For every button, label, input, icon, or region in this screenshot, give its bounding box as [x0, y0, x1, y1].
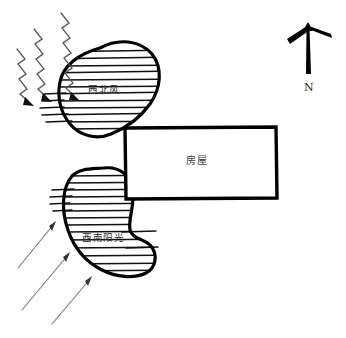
north-arrow-tip [303, 22, 313, 31]
wind-ray-2 [34, 29, 46, 97]
sun-ray-3 [52, 279, 90, 324]
north-arrow-group [287, 22, 332, 74]
north-arrow-shaft [306, 28, 311, 74]
diagram-canvas: 西北风 西南阳光 房屋 N [0, 0, 346, 338]
sun-ray-1 [18, 224, 54, 268]
north-arrow-right-barb [309, 26, 332, 38]
wind-blob-label: 西北风 [88, 82, 120, 96]
north-label: N [304, 81, 314, 94]
wind-ray-group [17, 13, 80, 106]
house-label: 房屋 [186, 152, 207, 167]
diagram-drawing [0, 0, 346, 338]
wind-ray-3 [17, 49, 28, 101]
sun-ray-2 [22, 255, 68, 310]
sun-blob-label: 西南阳光 [82, 230, 124, 244]
